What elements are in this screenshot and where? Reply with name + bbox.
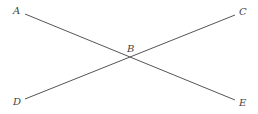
point-label-a: A: [12, 5, 20, 16]
segment-dc: [25, 15, 235, 99]
diagram-canvas: A B C D E: [0, 0, 258, 114]
point-label-c: C: [239, 6, 247, 17]
point-label-b: B: [126, 43, 134, 54]
point-label-e: E: [238, 97, 247, 108]
point-label-d: D: [12, 96, 21, 107]
